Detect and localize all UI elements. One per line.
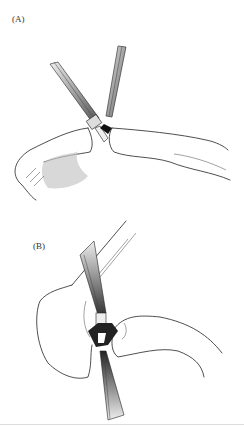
surgical-illustration-b (0, 205, 244, 427)
surgical-illustration-a (0, 0, 244, 205)
bottom-rule (0, 424, 244, 425)
figure-panel-a: (A) (0, 0, 244, 205)
figure-panel-b: (B) (0, 205, 244, 427)
